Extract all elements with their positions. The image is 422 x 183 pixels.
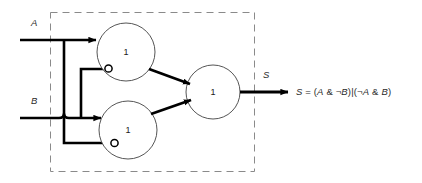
gate-or-bottom-label: 1 [125, 125, 130, 135]
inverter-bubble-top-icon [105, 65, 112, 72]
input-label-b: B [31, 95, 38, 106]
output-label-s: S [263, 69, 270, 80]
wire-b-branch-to-not [81, 69, 105, 118]
gate-or-top-label: 1 [123, 47, 128, 57]
inverter-bubble-bottom-icon [111, 139, 118, 146]
input-label-a: A [31, 17, 38, 28]
diagram-canvas: 1 1 1 A B S S = (A & ¬B)|(¬A & B) [0, 0, 422, 183]
wire-input-b [20, 114, 101, 119]
wire-bottom-gate-to-output-gate [151, 100, 191, 114]
output-formula: S = (A & ¬B)|(¬A & B) [296, 86, 391, 97]
gate-or-output-label: 1 [210, 87, 215, 97]
wire-top-gate-to-output-gate [149, 69, 190, 84]
